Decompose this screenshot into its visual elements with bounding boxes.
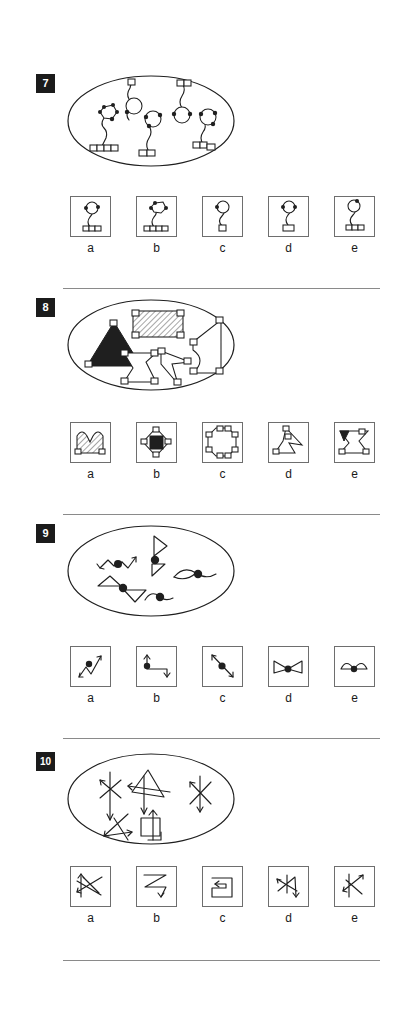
option-8-b[interactable] — [136, 422, 177, 463]
option-10-d[interactable] — [268, 866, 309, 907]
option-9-d[interactable] — [268, 646, 309, 687]
puzzle-number-badge-8: 8 — [36, 298, 55, 317]
puzzle-7-stem — [66, 74, 238, 168]
option-label-9-b: b — [136, 691, 177, 705]
option-label-9-e: e — [334, 691, 375, 705]
option-label-7-a: a — [70, 241, 111, 255]
option-7-e[interactable] — [334, 196, 375, 237]
option-label-7-c: c — [202, 241, 243, 255]
option-10-e[interactable] — [334, 866, 375, 907]
puzzle-7-options: a b — [66, 196, 384, 256]
option-label-10-a: a — [70, 911, 111, 925]
option-label-9-d: d — [268, 691, 309, 705]
puzzle-number-badge-10: 10 — [36, 752, 55, 771]
section-divider-8 — [63, 514, 380, 515]
option-label-8-c: c — [202, 467, 243, 481]
section-divider-10 — [63, 960, 380, 961]
option-label-10-b: b — [136, 911, 177, 925]
option-label-8-e: e — [334, 467, 375, 481]
puzzle-9-options: a b c — [66, 646, 384, 706]
puzzle-number-badge-9: 9 — [36, 524, 55, 543]
option-label-10-c: c — [202, 911, 243, 925]
option-label-9-c: c — [202, 691, 243, 705]
option-7-b[interactable] — [136, 196, 177, 237]
option-label-8-d: d — [268, 467, 309, 481]
option-8-c[interactable] — [202, 422, 243, 463]
puzzle-10-stem — [66, 752, 238, 846]
option-label-9-a: a — [70, 691, 111, 705]
option-label-10-d: d — [268, 911, 309, 925]
test-page: 7 — [0, 0, 407, 1011]
puzzle-8-stem — [66, 298, 238, 392]
puzzle-9-stem — [66, 524, 238, 618]
option-8-e[interactable] — [334, 422, 375, 463]
option-9-e[interactable] — [334, 646, 375, 687]
option-7-d[interactable] — [268, 196, 309, 237]
option-7-a[interactable] — [70, 196, 111, 237]
option-8-a[interactable] — [70, 422, 111, 463]
option-label-7-d: d — [268, 241, 309, 255]
option-9-b[interactable] — [136, 646, 177, 687]
section-divider-9 — [63, 738, 380, 739]
section-divider-7 — [63, 288, 380, 289]
option-8-d[interactable] — [268, 422, 309, 463]
puzzle-9-stem-figure — [66, 524, 246, 624]
option-label-10-e: e — [334, 911, 375, 925]
puzzle-10-stem-figure — [66, 752, 246, 852]
option-9-a[interactable] — [70, 646, 111, 687]
option-label-8-b: b — [136, 467, 177, 481]
option-10-b[interactable] — [136, 866, 177, 907]
option-label-7-e: e — [334, 241, 375, 255]
puzzle-10-options: a b c — [66, 866, 384, 926]
puzzle-8-options: a b — [66, 422, 384, 482]
option-10-c[interactable] — [202, 866, 243, 907]
puzzle-8-stem-figure — [66, 298, 246, 398]
puzzle-7-stem-figure — [66, 74, 246, 174]
option-label-8-a: a — [70, 467, 111, 481]
puzzle-number-badge-7: 7 — [36, 74, 55, 93]
option-9-c[interactable] — [202, 646, 243, 687]
option-10-a[interactable] — [70, 866, 111, 907]
option-label-7-b: b — [136, 241, 177, 255]
option-7-c[interactable] — [202, 196, 243, 237]
